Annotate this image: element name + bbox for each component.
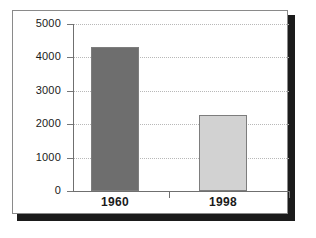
bar-1998[interactable] xyxy=(199,115,247,191)
ytick-label-2000: 2000 xyxy=(13,117,61,129)
plot-area: 5000 4000 3000 2000 1000 0 1960 1998 xyxy=(13,11,289,215)
xtick-mark-center xyxy=(169,192,170,198)
gridline-5000 xyxy=(73,24,289,25)
xtick-mark-end xyxy=(289,192,290,198)
ytick-label-4000: 4000 xyxy=(13,50,61,62)
y-axis-line xyxy=(73,24,74,192)
xtick-label-1998: 1998 xyxy=(193,195,253,209)
ytick-label-1000: 1000 xyxy=(13,151,61,163)
ytick-label-3000: 3000 xyxy=(13,84,61,96)
x-axis-line xyxy=(73,191,290,192)
ytick-label-5000: 5000 xyxy=(13,17,61,29)
figure-frame: 5000 4000 3000 2000 1000 0 1960 1998 xyxy=(12,10,288,214)
chart-figure: 5000 4000 3000 2000 1000 0 1960 1998 xyxy=(0,0,316,238)
xtick-label-1960: 1960 xyxy=(85,195,145,209)
ytick-label-0: 0 xyxy=(13,184,61,196)
bar-1960[interactable] xyxy=(91,47,139,191)
